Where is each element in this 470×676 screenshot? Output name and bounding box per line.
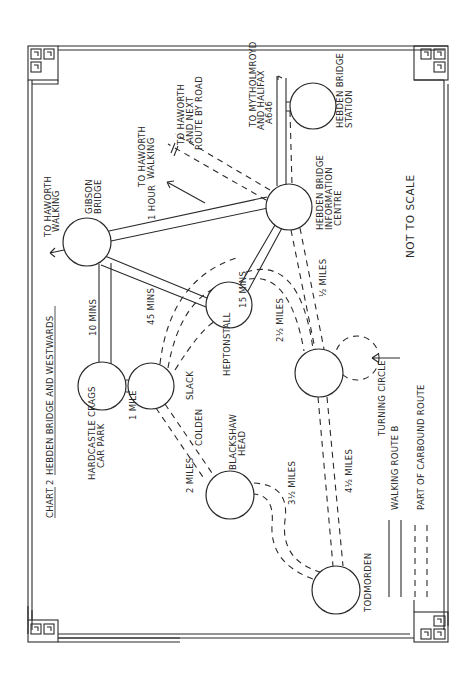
label-mytholmroyd-3: A646	[264, 101, 274, 124]
label-2-miles: 2 MILES	[185, 457, 195, 493]
legend-walking-label: WALKING ROUTE B	[390, 425, 400, 510]
turning-circle	[335, 336, 400, 380]
label-15-mins: 15 MINS	[238, 271, 248, 308]
label-haworth-road-3: ROUTE BY ROAD	[194, 76, 204, 150]
chart-heading: HEBDEN BRIDGE AND WESTWARDS	[45, 315, 55, 475]
label-hardcastle-2: CAR PARK	[96, 423, 106, 468]
label-station-2: STATION	[344, 90, 354, 128]
corner-knot-bottom-left	[28, 606, 58, 642]
corner-knot-bottom-right	[414, 600, 448, 642]
node-hebden-bridge-station[interactable]	[290, 83, 336, 129]
node-gibson-bridge[interactable]	[63, 218, 111, 266]
label-half-miles: ½ MILES	[318, 259, 328, 297]
label-todmorden: TODMORDEN	[363, 553, 373, 613]
corner-knot-top-right	[414, 46, 448, 80]
corner-knot-top-left	[28, 46, 58, 84]
arrow-haworth-walking	[167, 181, 205, 203]
label-45-mins: 45 MINS	[146, 288, 156, 325]
arrow-gibson-haworth	[50, 248, 64, 257]
arrow-mytholmroyd	[278, 76, 282, 80]
label-1-hour: 1 HOUR	[147, 185, 157, 220]
label-4-half-miles: 4½ MILES	[344, 449, 354, 493]
node-blackshaw-head[interactable]	[206, 471, 254, 519]
decorative-border	[28, 46, 448, 642]
label-1-mile: 1 MILE	[128, 390, 138, 420]
label-heptonstall: HEPTONSTALL	[222, 312, 232, 376]
label-slack: SLACK	[185, 371, 195, 400]
route-chart: CHART 2 HEBDEN BRIDGE AND WESTWARDS NOT …	[0, 0, 470, 676]
label-turning-circle: TURNING CIRCLE	[377, 360, 387, 437]
node-junction[interactable]	[295, 349, 343, 397]
legend-item-walking: WALKING ROUTE B	[389, 425, 401, 597]
legend-carbound-label: PART OF CARBOUND ROUTE	[416, 384, 426, 510]
label-colden: COLDEN	[194, 409, 204, 446]
label-blackshaw-2: HEAD	[237, 431, 247, 456]
label-gibson-haworth-2: WALKING	[51, 190, 61, 232]
label-info-centre-3: CENTRE	[333, 190, 343, 226]
node-hebden-bridge-info[interactable]	[266, 184, 312, 230]
label-two-half-miles: 2½ MILES	[275, 298, 285, 342]
label-haworth-walking-2: WALKING	[146, 137, 156, 179]
label-10-mins: 10 MINS	[88, 299, 98, 336]
chart-number: CHART 2	[45, 479, 55, 518]
label-gibson-bridge-2: BRIDGE	[93, 179, 103, 214]
node-todmorden[interactable]	[312, 566, 360, 614]
legend-item-carbound: PART OF CARBOUND ROUTE	[415, 384, 427, 597]
node-hardcastle-crags[interactable]	[78, 362, 126, 410]
not-to-scale-note: NOT TO SCALE	[404, 174, 416, 258]
legend: WALKING ROUTE B PART OF CARBOUND ROUTE	[389, 384, 427, 597]
label-3-half-miles: 3½ MILES	[287, 461, 297, 505]
